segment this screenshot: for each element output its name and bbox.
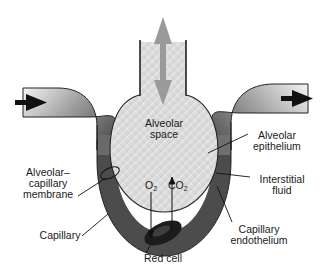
red-cell-label: Red cell [140,253,186,264]
co2-base: CO [168,179,184,191]
membrane-line3: membrane [20,189,76,200]
capillary-endothelium-line2: endothelium [226,235,292,246]
o2-sub: 2 [153,185,157,192]
alveolar-epithelium-label: Alveolar epithelium [253,130,301,152]
capillary-label: Capillary [38,230,82,241]
interstitial-fluid-label: Interstitial fluid [253,174,311,196]
o2-base: O [145,179,153,191]
interstitial-fluid-line2: fluid [253,185,311,196]
o2-label: O2 [145,179,157,192]
alveolar-epithelium-line2: epithelium [253,141,301,152]
co2-sub: 2 [184,185,188,192]
alveolar-capillary-membrane-label: Alveolar– capillary membrane [20,167,76,200]
capillary-endothelium-label: Capillary endothelium [226,224,292,246]
co2-label: CO2 [168,179,188,192]
alveolar-space-label: Alveolar space [140,118,188,140]
capillary-text: Capillary [40,229,81,241]
red-cell-text: Red cell [144,252,182,264]
alveolar-space-line2: space [140,129,188,140]
